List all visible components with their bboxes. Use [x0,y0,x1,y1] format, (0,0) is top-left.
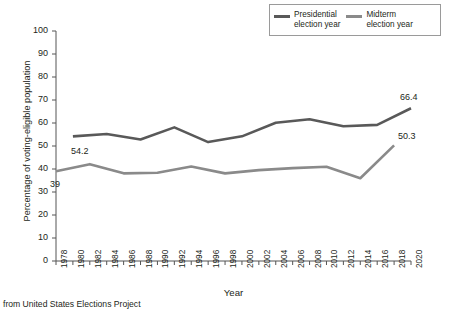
x-tick-label: 2020 [415,250,424,268]
x-tick-label: 2002 [263,250,272,268]
x-tick-label: 1990 [161,250,170,268]
x-tick-label: 2008 [314,250,323,268]
point-label-50-3: 50.3 [398,131,416,141]
y-tick-label: 50 [22,140,48,150]
y-tick-label: 40 [22,163,48,173]
x-tick-label: 1994 [195,250,204,268]
x-tick-label: 2012 [347,250,356,268]
y-tick-label: 20 [22,209,48,219]
x-tick-label: 2006 [297,250,306,268]
point-label-39: 39 [50,179,60,189]
x-tick-label: 2004 [280,250,289,268]
x-tick-label: 2018 [398,250,407,268]
y-tick-label: 10 [22,232,48,242]
plot-overlay: 1009080706050403020100197819801982198419… [0,0,450,316]
x-tick-label: 1982 [94,250,103,268]
chart-figure: Presidential election year Midterm elect… [0,0,450,316]
y-tick-label: 60 [22,117,48,127]
x-tick-label: 1978 [60,250,69,268]
x-tick-label: 1998 [229,250,238,268]
x-tick-label: 1992 [178,250,187,268]
x-tick-label: 1984 [111,250,120,268]
point-label-54-2: 54.2 [71,146,89,156]
x-tick-label: 2014 [364,250,373,268]
x-tick-label: 1996 [212,250,221,268]
x-tick-label: 1988 [145,250,154,268]
x-tick-label: 1980 [77,250,86,268]
x-tick-label: 2000 [246,250,255,268]
y-tick-label: 80 [22,71,48,81]
y-tick-label: 70 [22,94,48,104]
x-tick-label: 2016 [381,250,390,268]
y-tick-label: 30 [22,186,48,196]
y-tick-label: 0 [22,255,48,265]
y-tick-label: 90 [22,48,48,58]
x-tick-label: 2010 [330,250,339,268]
x-tick-label: 1986 [128,250,137,268]
y-tick-label: 100 [22,25,48,35]
point-label-66-4: 66.4 [400,92,418,102]
